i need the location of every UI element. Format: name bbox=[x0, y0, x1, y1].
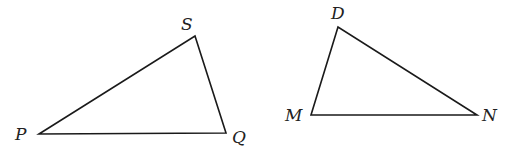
triangles-figure: P S Q D M N bbox=[0, 0, 516, 154]
vertex-label-d: D bbox=[330, 3, 345, 23]
vertex-label-p: P bbox=[14, 124, 27, 144]
vertex-label-q: Q bbox=[232, 127, 246, 147]
vertex-label-s: S bbox=[181, 14, 193, 34]
triangle-pqs bbox=[39, 36, 226, 134]
vertex-label-n: N bbox=[481, 105, 498, 125]
diagram-canvas: P S Q D M N bbox=[0, 0, 516, 154]
triangle-dmn bbox=[311, 27, 477, 115]
vertex-label-m: M bbox=[284, 105, 303, 125]
